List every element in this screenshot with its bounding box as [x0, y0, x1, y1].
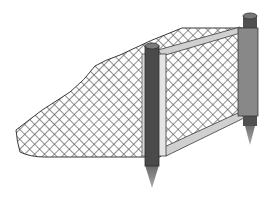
back-stake	[238, 13, 258, 145]
front-stake	[145, 43, 159, 188]
net-illustration: Illustration of a fish net / barrier net…	[0, 0, 274, 202]
